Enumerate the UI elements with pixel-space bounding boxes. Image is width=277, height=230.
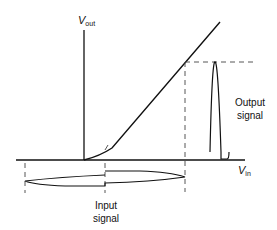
input-signal-label-line2: signal: [86, 212, 126, 225]
vout-axis-label: Vout: [78, 14, 95, 30]
transfer-curve: [84, 22, 220, 160]
output-signal-waveform: [210, 62, 229, 159]
input-signal-label-line1: Input: [86, 199, 126, 212]
output-signal-label-line1: Output: [228, 96, 272, 109]
vin-subscript: in: [245, 170, 250, 177]
output-signal-label-line2: signal: [228, 109, 272, 122]
vout-subscript: out: [85, 20, 95, 27]
output-signal-label: Output signal: [228, 96, 272, 122]
input-signal-label: Input signal: [86, 199, 126, 225]
vin-axis-label: Vin: [238, 164, 251, 180]
knee-tick: [105, 145, 108, 150]
